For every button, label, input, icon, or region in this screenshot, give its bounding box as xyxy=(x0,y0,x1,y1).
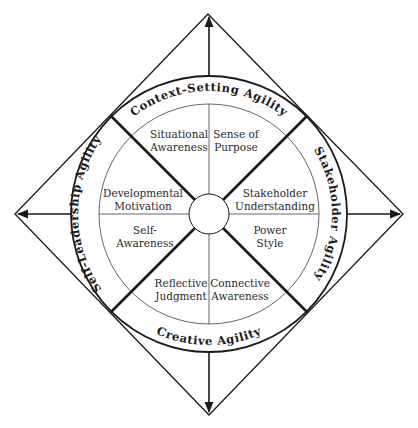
center-hub xyxy=(189,194,229,234)
segment-power-style-line1: Power xyxy=(253,224,287,236)
segment-self-awareness-line2: Awareness xyxy=(115,237,173,249)
segment-connective-awareness-line1: Connective xyxy=(210,277,270,289)
segment-sense-of-purpose-line1: Sense of xyxy=(213,128,259,140)
segment-developmental-motivation-line2: Motivation xyxy=(114,200,172,212)
segment-reflective-judgment-line1: Reflective xyxy=(155,277,208,289)
segment-connective-awareness-line2: Awareness xyxy=(210,290,268,302)
agility-compass-diagram: Context-Setting Agility Creative Agility… xyxy=(0,0,418,428)
segment-sense-of-purpose-line2: Purpose xyxy=(214,141,258,153)
segment-stakeholder-understanding-line1: Stakeholder xyxy=(243,187,309,199)
segment-stakeholder-understanding-line2: Understanding xyxy=(235,200,315,212)
segment-developmental-motivation-line1: Developmental xyxy=(103,187,184,199)
segment-reflective-judgment-line2: Judgment xyxy=(154,290,207,302)
segment-situational-awareness-line1: Situational xyxy=(150,128,209,140)
segment-power-style-line2: Style xyxy=(257,237,284,249)
segment-situational-awareness-line2: Awareness xyxy=(149,141,207,153)
segment-self-awareness-line1: Self- xyxy=(133,224,157,236)
